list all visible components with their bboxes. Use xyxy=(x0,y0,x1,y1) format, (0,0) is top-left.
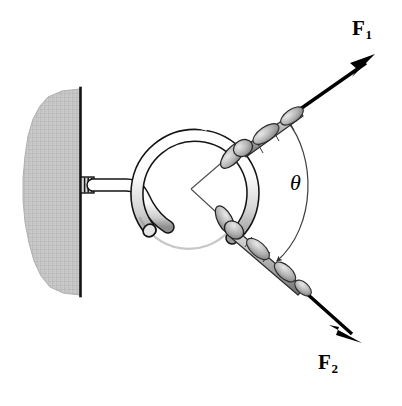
rope-upper-group xyxy=(216,54,375,172)
force1-label: F1 xyxy=(352,18,372,39)
wall-hatched-region xyxy=(23,89,80,295)
physics-diagram: F1 F2 θ xyxy=(0,0,402,406)
rope-lower-group xyxy=(211,203,362,343)
force2-label: F2 xyxy=(318,352,338,373)
force1-symbol: F xyxy=(352,16,365,40)
force1-arrow-shaft xyxy=(296,63,366,112)
bolt-shank-group xyxy=(81,177,168,227)
force2-arrow-shaft xyxy=(305,292,352,334)
force2-subscript: 2 xyxy=(332,361,339,376)
ring-free-end-body xyxy=(149,230,150,231)
angle-theta-label: θ xyxy=(290,172,301,194)
diagram-canvas xyxy=(0,0,402,406)
force1-subscript: 1 xyxy=(366,27,373,42)
wall-group xyxy=(23,88,81,296)
force2-symbol: F xyxy=(318,350,331,374)
